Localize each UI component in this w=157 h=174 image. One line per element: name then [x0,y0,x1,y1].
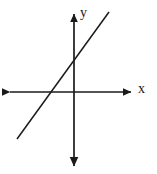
coordinate-plane-figure: y x [0,0,157,174]
y-axis-label: y [80,6,87,20]
graph-canvas [0,0,157,174]
x-axis-label: x [138,82,145,96]
figure-background [0,0,157,174]
